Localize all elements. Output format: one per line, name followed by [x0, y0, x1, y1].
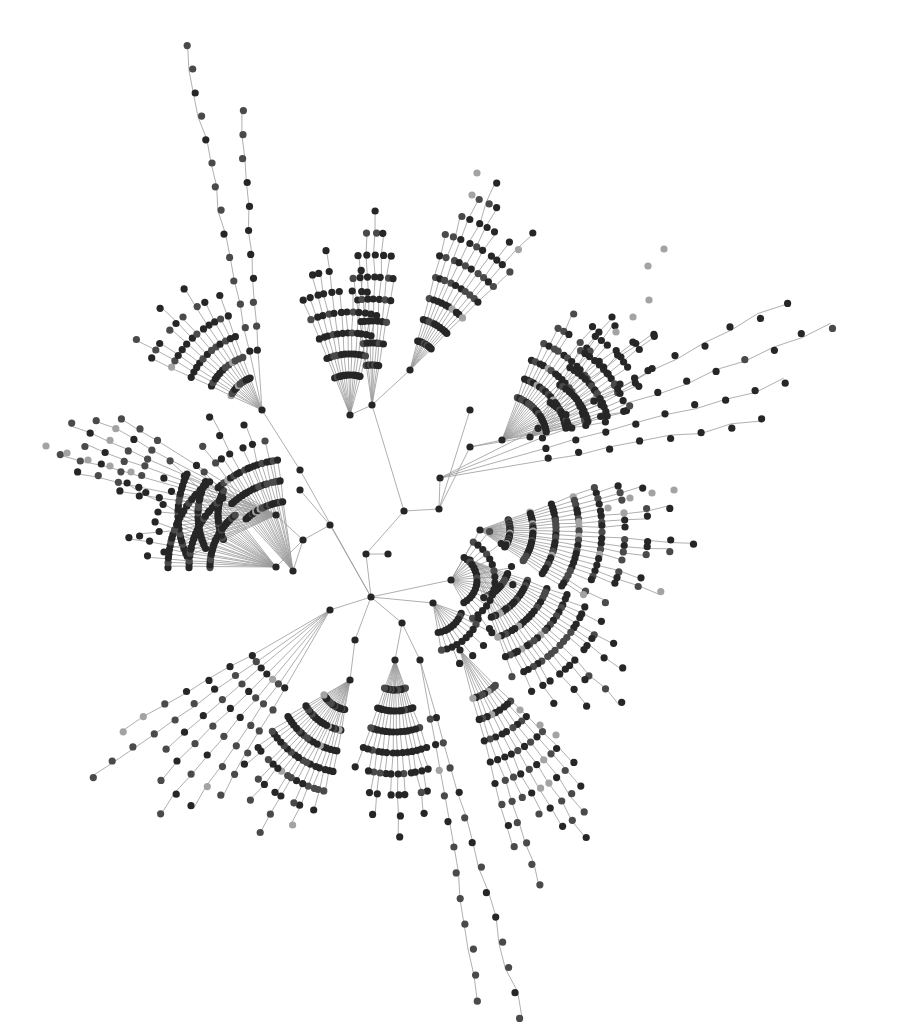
edge [496, 917, 499, 943]
graph-node [597, 413, 604, 420]
graph-node [558, 797, 565, 804]
graph-node [320, 290, 327, 297]
graph-node [559, 823, 566, 830]
graph-node [74, 468, 81, 475]
graph-node [240, 421, 247, 428]
edge [300, 470, 371, 597]
graph-node [472, 972, 479, 979]
edge [486, 183, 495, 203]
graph-node [302, 702, 309, 709]
graph-node [274, 457, 281, 464]
edge [175, 775, 192, 793]
edge [725, 392, 755, 399]
graph-node [151, 730, 158, 737]
edge [185, 716, 204, 732]
graph-node [247, 251, 254, 258]
edge [688, 370, 716, 384]
edge [273, 688, 285, 710]
edge [92, 763, 113, 777]
graph-node [520, 557, 527, 564]
graph-node [93, 417, 100, 424]
graph-node [661, 410, 668, 417]
graph-node [565, 331, 572, 338]
graph-node [232, 333, 239, 340]
graph-node [125, 534, 132, 541]
edge [450, 821, 455, 847]
graph-node [488, 614, 495, 621]
graph-node [436, 474, 443, 481]
graph-node [144, 456, 151, 463]
graph-node [240, 107, 247, 114]
graph-node [320, 691, 327, 698]
graph-node [374, 790, 381, 797]
graph-node [98, 460, 105, 467]
graph-node [188, 771, 195, 778]
graph-node [498, 801, 505, 808]
graph-node [521, 743, 528, 750]
graph-node [395, 770, 402, 777]
graph-node [206, 478, 213, 485]
graph-node [142, 489, 149, 496]
graph-node [527, 739, 534, 746]
graph-node [450, 843, 457, 850]
graph-node [508, 798, 515, 805]
graph-node [319, 312, 326, 319]
graph-node [644, 367, 651, 374]
graph-node [595, 555, 602, 562]
graph-node [533, 733, 540, 740]
edge [113, 748, 134, 762]
graph-node [216, 292, 223, 299]
graph-node [602, 429, 609, 436]
edge [440, 429, 538, 479]
graph-node [218, 207, 225, 214]
graph-node [284, 713, 291, 720]
edge [420, 660, 431, 719]
graph-node [608, 313, 615, 320]
edge [177, 744, 195, 761]
graph-node [250, 275, 257, 282]
edge [279, 610, 330, 684]
graph-node [498, 540, 505, 547]
graph-node [336, 288, 343, 295]
edge [489, 892, 497, 917]
graph-node [112, 425, 119, 432]
graph-node [179, 313, 186, 320]
graph-node [432, 741, 439, 748]
graph-node [200, 712, 207, 719]
graph-node [421, 810, 428, 817]
graph-node [631, 375, 638, 382]
graph-node [782, 380, 789, 387]
graph-node [226, 254, 233, 261]
graph-node [205, 677, 212, 684]
graph-node [501, 753, 508, 760]
edge [576, 432, 606, 440]
edge [468, 950, 474, 975]
graph-node [636, 346, 643, 353]
graph-node [469, 695, 476, 702]
graph-node [581, 603, 588, 610]
graph-node [741, 356, 748, 363]
graph-node [570, 759, 577, 766]
graph-node [255, 744, 262, 751]
graph-node [545, 780, 552, 787]
edge [464, 924, 468, 950]
graph-node [489, 561, 496, 568]
graph-node [156, 528, 163, 535]
edge [246, 183, 249, 207]
graph-node [388, 253, 395, 260]
graph-node [484, 224, 491, 231]
graph-node [183, 341, 190, 348]
graph-node [246, 203, 253, 210]
graph-node [433, 714, 440, 721]
graph-node [510, 774, 517, 781]
edge [248, 206, 249, 230]
graph-node [354, 252, 361, 259]
graph-node [260, 700, 267, 707]
edge [194, 786, 206, 808]
graph-node [598, 528, 605, 535]
graph-node [277, 477, 284, 484]
graph-node [639, 485, 646, 492]
graph-node [245, 227, 252, 234]
graph-node [272, 511, 279, 518]
graph-node [519, 794, 526, 801]
